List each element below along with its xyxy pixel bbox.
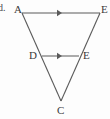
vertex-label-c: C (57, 105, 64, 116)
vertex-label-d: D (29, 50, 37, 61)
segment-left-side (22, 13, 61, 101)
top-arrow-marker-icon (57, 10, 62, 16)
vertex-label-e-mid: E (83, 50, 90, 61)
vertex-label-e-top: E (101, 4, 108, 15)
diagram-screenshot: d. A E D E C (0, 0, 110, 119)
mid-arrow-marker-icon (57, 53, 62, 59)
segment-right-side (61, 13, 100, 101)
geometry-diagram (0, 0, 110, 119)
list-item-label: d. (0, 3, 6, 13)
vertex-label-a: A (14, 4, 22, 15)
